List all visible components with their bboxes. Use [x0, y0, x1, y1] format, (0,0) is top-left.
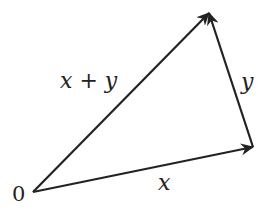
vector-y-label: y [240, 69, 254, 94]
vector-x-label: x [158, 170, 171, 195]
vector-x-plus-y-arrow [33, 13, 209, 192]
vector-x-arrow [33, 147, 253, 192]
vector-x-plus-y-label: x + y [60, 68, 118, 93]
vector-addition-diagram: 0 x y x + y [0, 0, 272, 212]
origin-label: 0 [12, 182, 25, 206]
